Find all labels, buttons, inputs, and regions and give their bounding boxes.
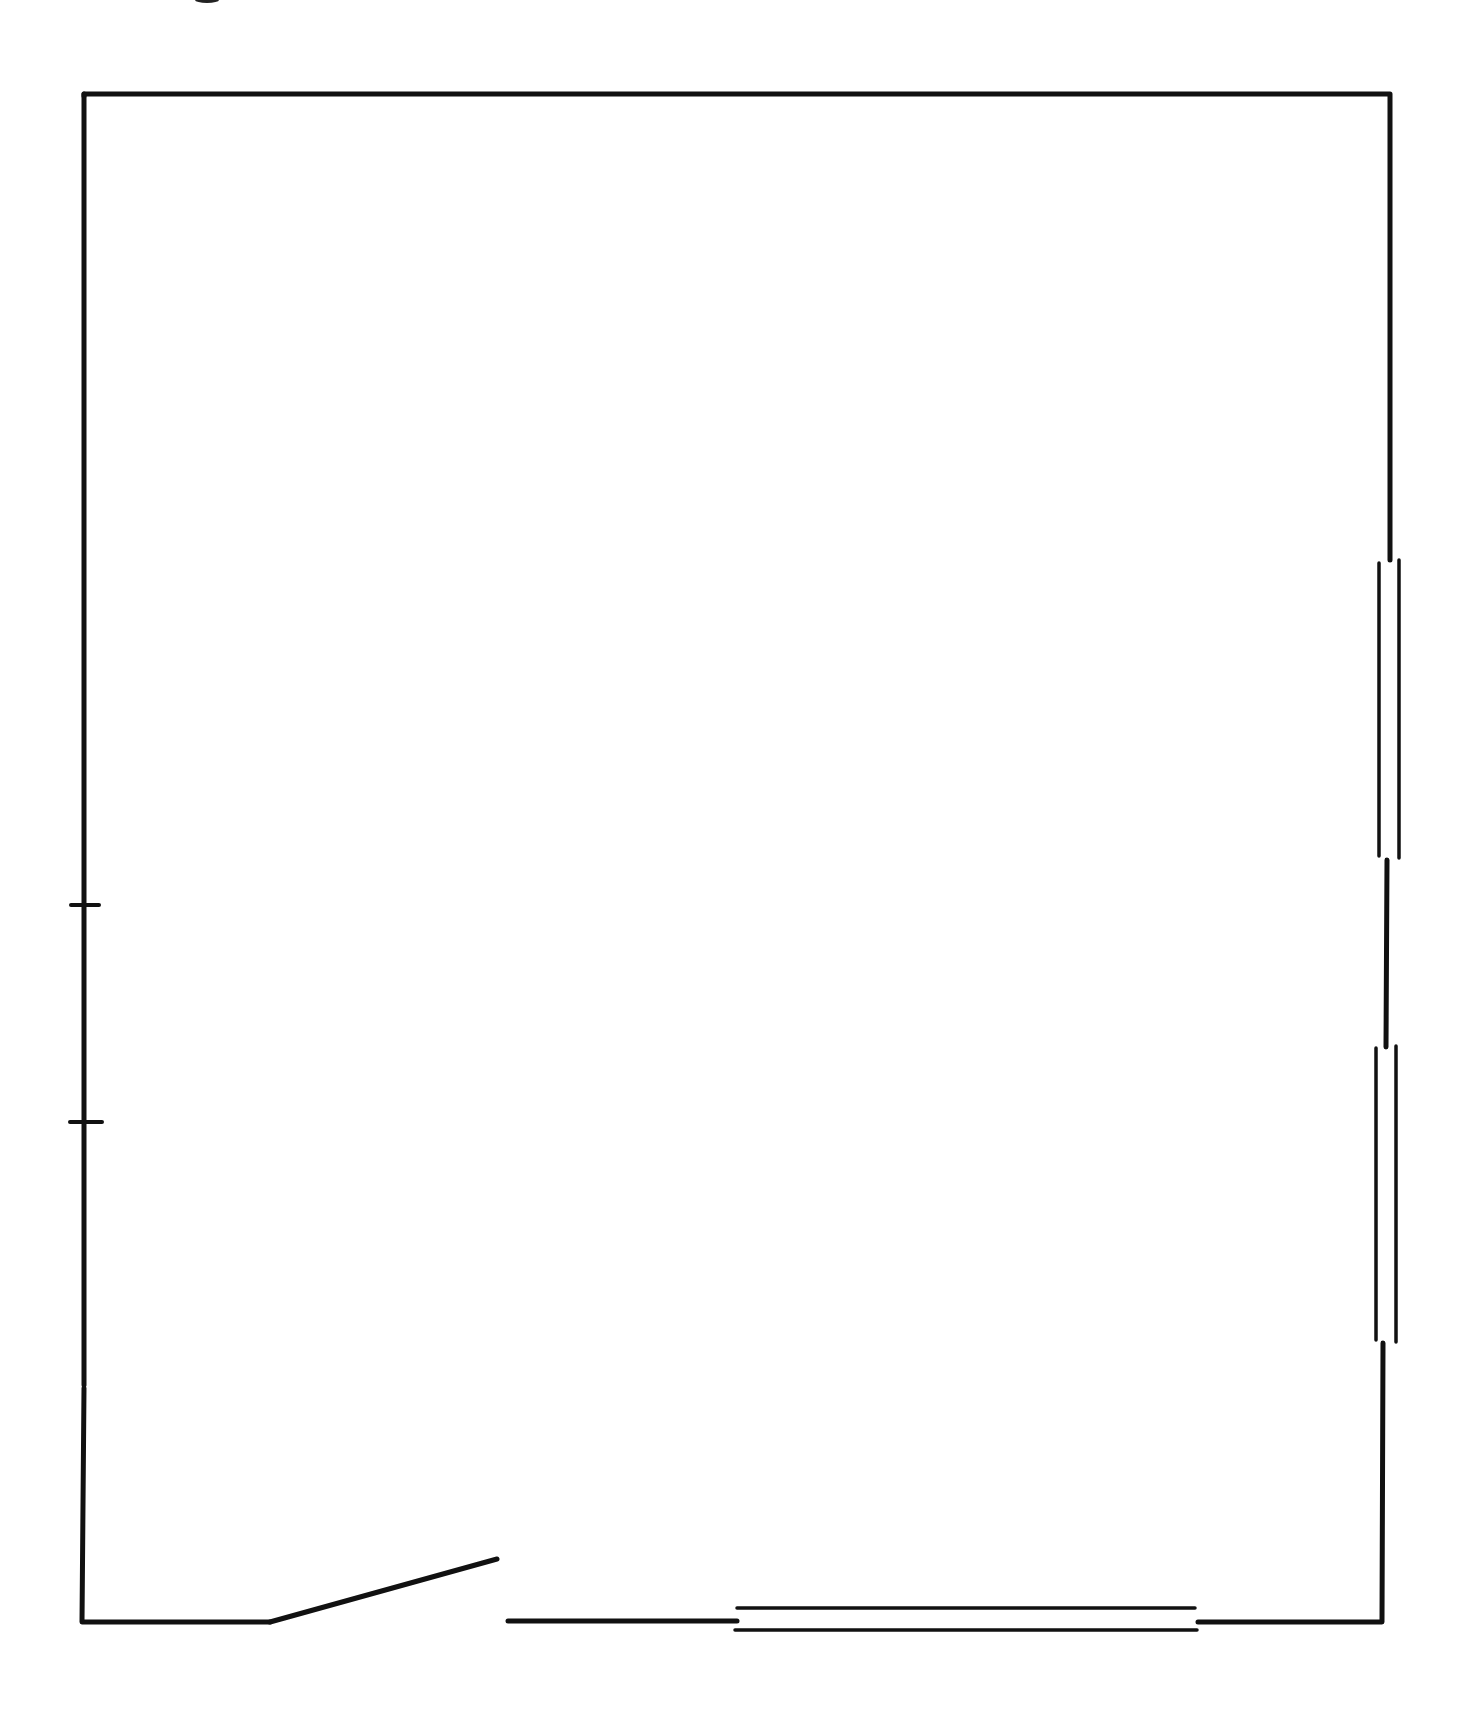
wall-top (84, 94, 1390, 560)
cropped-title-glyph (195, 0, 219, 3)
window-bottom (735, 1608, 1197, 1630)
window-right-upper (1379, 560, 1399, 858)
window-right-lower (1376, 1046, 1396, 1342)
wall-bottom-right (1198, 1343, 1383, 1622)
wall-right-middle (1386, 860, 1387, 1047)
wall-left-lower (82, 1388, 270, 1622)
floor-plan (0, 0, 1466, 1713)
door-leaf (270, 1559, 497, 1622)
